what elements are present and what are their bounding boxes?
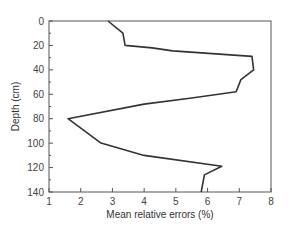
x-tick-label: 4 (141, 196, 147, 207)
y-tick-label: 20 (33, 40, 45, 51)
y-tick-label: 120 (27, 162, 44, 173)
line-chart: 020406080100120140 12345678 Mean relativ… (0, 0, 290, 230)
x-tick-label: 8 (268, 196, 274, 207)
y-tick-label: 80 (33, 113, 45, 124)
y-axis-title: Depth (cm) (10, 82, 21, 131)
mean-relative-error-line (68, 21, 254, 192)
x-tick-label: 2 (78, 196, 84, 207)
y-tick-label: 40 (33, 64, 45, 75)
x-tick-label: 3 (110, 196, 116, 207)
x-axis-title: Mean relative errors (%) (106, 209, 213, 220)
y-tick-label: 60 (33, 89, 45, 100)
x-tick-label: 6 (205, 196, 211, 207)
plot-frame (49, 21, 271, 192)
y-tick-label: 100 (27, 138, 44, 149)
y-tick-label: 0 (38, 16, 44, 27)
x-axis: 12345678 (46, 188, 274, 207)
x-tick-label: 5 (173, 196, 179, 207)
y-tick-label: 140 (27, 187, 44, 198)
x-tick-label: 1 (46, 196, 52, 207)
x-tick-label: 7 (237, 196, 243, 207)
